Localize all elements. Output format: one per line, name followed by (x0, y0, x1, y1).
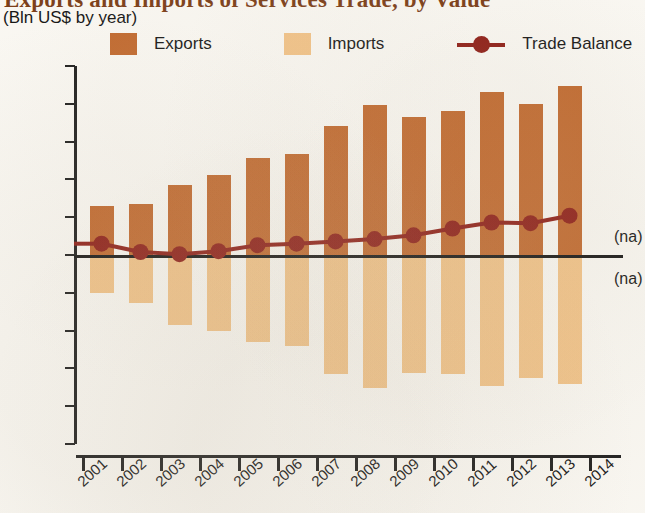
chart-legend: Exports Imports Trade Balance (110, 33, 632, 55)
x-tick-label: 2002 (113, 455, 149, 490)
trade-balance-point (484, 215, 500, 231)
trade-balance-point (172, 246, 188, 262)
trade-balance-point (523, 215, 539, 231)
x-tick-label: 2010 (425, 455, 461, 490)
na-label-below: (na) (614, 270, 642, 288)
x-tick-label: 2005 (230, 455, 266, 490)
x-tick-label: 2009 (386, 455, 422, 490)
x-tick-label: 2006 (269, 455, 305, 490)
trade-balance-point (133, 244, 149, 260)
legend-marker-trade-balance (457, 33, 505, 55)
trade-balance-point (328, 233, 344, 249)
x-tick-label: 2008 (347, 455, 383, 490)
na-label-above: (na) (614, 228, 642, 246)
trade-balance-line (74, 66, 614, 444)
plot-area (74, 66, 614, 444)
legend-swatch-imports (284, 33, 311, 55)
trade-balance-point (211, 243, 227, 259)
legend-item-trade-balance[interactable]: Trade Balance (457, 33, 632, 55)
x-axis-line (76, 455, 621, 458)
trade-balance-point (562, 208, 578, 224)
x-tick-label: 2007 (308, 455, 344, 490)
legend-item-imports[interactable]: Imports (284, 33, 385, 55)
trade-balance-point (250, 237, 266, 253)
x-tick-label: 2003 (152, 455, 188, 490)
legend-label-exports: Exports (154, 34, 212, 54)
x-tick-label: 2001 (74, 455, 110, 490)
legend-item-exports[interactable]: Exports (110, 33, 212, 55)
trade-balance-point (406, 227, 422, 243)
x-tick-label: 2014 (581, 455, 617, 490)
trade-balance-point (289, 236, 305, 252)
x-tick-label: 2012 (503, 455, 539, 490)
trade-balance-point (445, 221, 461, 237)
chart-subtitle: (Bln US$ by year) (3, 8, 137, 28)
trade-balance-point (94, 236, 110, 252)
legend-swatch-exports (110, 33, 137, 55)
trade-balance-point (367, 231, 383, 247)
legend-label-imports: Imports (328, 34, 385, 54)
x-tick-label: 2011 (464, 455, 499, 489)
x-tick-label: 2013 (542, 455, 578, 490)
legend-label-trade-balance: Trade Balance (522, 34, 632, 54)
x-tick-label: 2004 (191, 455, 227, 490)
